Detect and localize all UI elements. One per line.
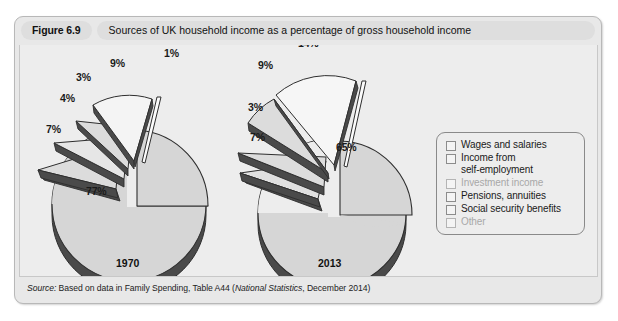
pie-1970-label-5: 1% — [164, 47, 179, 59]
pie-2013-label-1: 7% — [250, 131, 265, 143]
pie-2013-label-4: 14% — [298, 45, 318, 49]
source-publisher: National Statistics — [235, 283, 302, 293]
chart-plot-area: 77% 7% 4% 3% 9% 1% 1970 — [19, 45, 598, 277]
legend-label: Wages and salaries — [461, 139, 547, 151]
legend-swatch-icon — [446, 179, 456, 189]
source-middle: Based on data in Family Spending, Table … — [56, 283, 235, 293]
pie-2013-label-0: 65% — [336, 141, 356, 153]
legend-item-other: Other — [446, 216, 578, 228]
pie-2013-year: 2013 — [318, 257, 341, 269]
source-prefix: Source: — [27, 283, 56, 293]
legend-label: Pensions, annuities — [461, 190, 546, 202]
pie-1970-label-2: 4% — [60, 92, 75, 104]
legend-item-wages-and-salaries: Wages and salaries — [446, 139, 578, 151]
figure-frame: Figure 6.9 Sources of UK household incom… — [14, 16, 602, 304]
figure-caption-bar: Figure 6.9 Sources of UK household incom… — [15, 17, 601, 44]
pie-1970-label-1: 7% — [46, 123, 61, 135]
legend-label: Other — [461, 216, 486, 228]
legend-item-social-security-benefits: Social security benefits — [446, 203, 578, 215]
pie-chart-1970: 77% 7% 4% 3% 9% 1% 1970 — [24, 45, 234, 277]
pie-1970-label-3: 3% — [76, 71, 91, 83]
legend-swatch-icon — [446, 192, 456, 202]
legend-label: Income from self-employment — [461, 152, 533, 176]
legend-swatch-icon — [446, 141, 456, 151]
legend-item-pensions-annuities: Pensions, annuities — [446, 190, 578, 202]
legend-label: Social security benefits — [461, 203, 561, 215]
pie-1970-year: 1970 — [116, 257, 139, 269]
legend-item-investment-income: Investment income — [446, 177, 578, 189]
pie-2013-label-2: 3% — [248, 101, 263, 113]
pie-1970-graphic — [24, 45, 234, 277]
figure-number-badge: Figure 6.9 — [21, 21, 92, 40]
legend-label-line1: Income from — [461, 152, 515, 163]
pie-chart-2013: 65% 7% 3% 9% 14% 1% 2013 — [216, 45, 426, 277]
pie-1970-label-0: 77% — [86, 185, 106, 197]
legend-swatch-icon — [446, 205, 456, 215]
figure-title: Sources of UK household income as a perc… — [97, 21, 595, 40]
pie-1970-label-4: 9% — [110, 57, 125, 69]
source-suffix: , December 2014) — [302, 283, 370, 293]
pie-2013-label-3: 9% — [258, 59, 273, 71]
legend-item-income-from-self-employment: Income from self-employment — [446, 152, 578, 176]
legend-label-line2: self-employment — [461, 164, 533, 175]
figure-source-note: Source: Based on data in Family Spending… — [27, 283, 370, 293]
legend-label: Investment income — [461, 177, 543, 189]
legend-swatch-icon — [446, 218, 456, 228]
chart-legend: Wages and salaries Income from self-empl… — [436, 132, 585, 235]
pie-2013-graphic — [216, 45, 426, 277]
legend-swatch-icon — [446, 154, 456, 164]
